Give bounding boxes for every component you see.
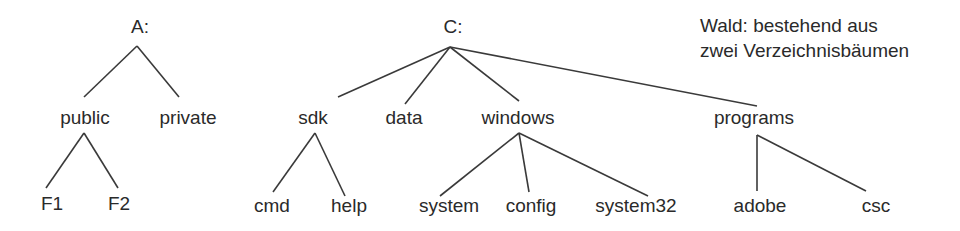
node-help: help	[331, 195, 367, 217]
node-private: private	[159, 107, 216, 129]
edge-windows-system32	[519, 133, 648, 196]
edge-a-private	[137, 46, 179, 97]
node-csc: csc	[862, 195, 891, 217]
forest-caption: Wald: bestehend aus zwei Verzeichnisbäum…	[700, 13, 909, 63]
edge-c-windows	[450, 47, 519, 101]
node-windows: windows	[482, 107, 555, 129]
edge-sdk-cmd	[273, 133, 315, 192]
node-programs: programs	[714, 107, 794, 129]
edge-a-public	[84, 46, 137, 97]
node-system32: system32	[595, 195, 676, 217]
node-f1: F1	[41, 193, 63, 215]
caption-line-2: zwei Verzeichnisbäumen	[700, 38, 909, 63]
node-c-root: C:	[444, 16, 463, 38]
node-a-root: A:	[131, 16, 149, 38]
node-public: public	[60, 107, 110, 129]
edge-sdk-help	[315, 133, 345, 196]
node-f2: F2	[108, 193, 130, 215]
edge-programs-csc	[757, 135, 866, 191]
node-cmd: cmd	[254, 195, 290, 217]
edge-public-f2	[84, 133, 118, 188]
edge-windows-config	[519, 133, 529, 192]
edge-public-f1	[46, 133, 84, 188]
node-system: system	[419, 195, 479, 217]
node-config: config	[506, 195, 557, 217]
node-sdk: sdk	[298, 107, 328, 129]
node-adobe: adobe	[734, 195, 787, 217]
edge-windows-system	[440, 133, 519, 196]
edge-c-data	[405, 47, 450, 104]
caption-line-1: Wald: bestehend aus	[700, 13, 909, 38]
edge-c-sdk	[338, 47, 450, 97]
node-data: data	[386, 107, 423, 129]
